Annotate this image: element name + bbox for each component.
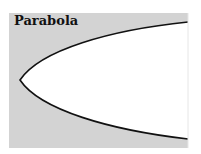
diagram-title: Parabola (14, 14, 78, 27)
parabola-figure: Parabola (0, 0, 201, 154)
